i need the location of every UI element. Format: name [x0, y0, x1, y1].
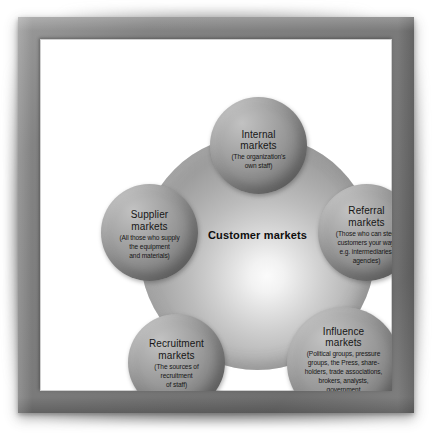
referral-markets-desc-line4: agencies): [353, 257, 381, 265]
supplier-markets-title-line2: markets: [131, 221, 167, 233]
influence-markets-desc-line3: holders, trade associations,: [305, 368, 382, 376]
referral-markets-desc-line3: e.g. intermediaries,: [339, 248, 392, 256]
recruitment-markets-desc-line1: (The sources of: [154, 363, 198, 371]
picture-frame: Customer markets Internal markets (The o…: [18, 17, 414, 413]
recruitment-markets-title-line1: Recruitment: [149, 338, 204, 350]
influence-markets-desc-line1: (Political groups, pressure: [307, 350, 381, 358]
referral-markets-desc-line2: customers your way,: [337, 239, 392, 247]
sphere-supplier-markets[interactable]: Supplier markets (All those who supply t…: [101, 184, 198, 281]
supplier-markets-title-line1: Supplier: [131, 209, 169, 221]
internal-markets-desc-line1: (The organization's: [232, 153, 286, 161]
internal-markets-title-line1: Internal: [241, 129, 275, 141]
internal-markets-title-line2: markets: [240, 140, 276, 152]
referral-markets-desc-line1: (Those who can steer: [336, 230, 392, 238]
influence-markets-title-line2: markets: [325, 337, 361, 349]
influence-markets-desc-line2: groups, the Press, share-: [308, 359, 380, 367]
supplier-markets-desc-line3: and materials): [129, 252, 169, 260]
referral-markets-title-line2: markets: [348, 217, 384, 229]
customer-markets-label: Customer markets: [208, 229, 307, 241]
diagram-canvas: Customer markets Internal markets (The o…: [40, 39, 392, 391]
recruitment-markets-desc-line3: of staff): [166, 381, 187, 389]
influence-markets-desc-line4: brokers, analysts,: [319, 377, 369, 385]
supplier-markets-desc-line2: the equipment: [129, 243, 170, 251]
recruitment-markets-desc-line2: recruitment: [161, 372, 193, 380]
influence-markets-desc-line5: government: [327, 386, 361, 391]
sphere-internal-markets[interactable]: Internal markets (The organization's own…: [210, 97, 307, 194]
recruitment-markets-title-line2: markets: [158, 350, 194, 362]
referral-markets-title-line1: Referral: [348, 205, 384, 217]
influence-markets-title-line1: Influence: [323, 326, 365, 338]
internal-markets-desc-line2: own staff): [245, 162, 272, 170]
supplier-markets-desc-line1: (All those who supply: [119, 234, 179, 242]
diagram-stage: Customer markets Internal markets (The o…: [0, 0, 433, 445]
